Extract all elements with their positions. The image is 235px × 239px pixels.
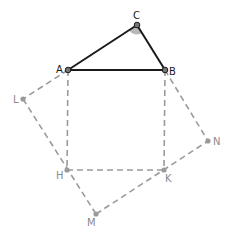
segment-BK xyxy=(164,70,165,170)
label-H: H xyxy=(56,170,64,181)
solid-points xyxy=(65,22,168,73)
segment-LM xyxy=(23,99,96,214)
point-B[interactable] xyxy=(162,67,168,73)
segment-BC xyxy=(137,25,165,70)
segment-MN xyxy=(96,141,208,214)
segment-BN xyxy=(165,70,208,141)
point-C[interactable] xyxy=(134,22,140,28)
point-L[interactable] xyxy=(20,96,25,101)
label-A: A xyxy=(56,64,63,75)
label-C: C xyxy=(133,10,140,21)
point-H[interactable] xyxy=(64,167,69,172)
dashed-points xyxy=(20,96,210,216)
label-L: L xyxy=(13,94,19,105)
label-K: K xyxy=(165,173,172,184)
label-N: N xyxy=(213,136,220,147)
diagram-svg: C A B L N H K M xyxy=(0,0,235,239)
dashed-lines xyxy=(23,70,208,214)
point-N[interactable] xyxy=(205,138,210,143)
label-M: M xyxy=(87,217,96,228)
label-B: B xyxy=(169,66,176,77)
point-K[interactable] xyxy=(161,167,166,172)
geometry-diagram: C A B L N H K M xyxy=(0,0,235,239)
point-M[interactable] xyxy=(93,211,98,216)
point-A[interactable] xyxy=(65,67,71,73)
triangle-ABC xyxy=(68,25,165,70)
segment-AH xyxy=(67,70,68,170)
segment-AC xyxy=(68,25,137,70)
